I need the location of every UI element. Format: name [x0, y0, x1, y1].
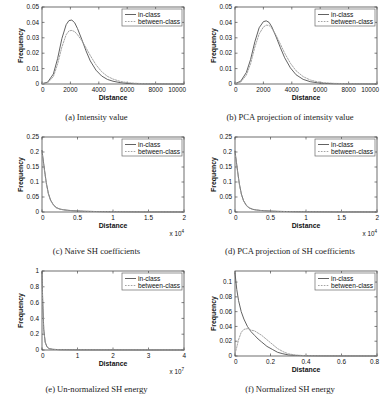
- subplot-cell-b: 020004000600080001000000.010.020.030.040…: [193, 0, 387, 130]
- caption-e-label: (e): [45, 384, 55, 394]
- caption-d-label: (d): [225, 246, 235, 256]
- x-tick-label: 10000: [361, 86, 379, 93]
- y-tick-label: 0.6: [30, 299, 39, 306]
- caption-b-text: PCA projection of intensity value: [238, 112, 353, 122]
- x-tick-label: 0.5: [73, 214, 82, 221]
- y-tick-label: 0.2: [30, 330, 39, 337]
- caption-e: (e)Un-normalized SH energy: [45, 385, 147, 394]
- legend-label-between-class: between-class: [138, 148, 181, 155]
- y-tick-label: 0.2: [30, 148, 39, 155]
- plot-b: 020004000600080001000000.010.020.030.040…: [197, 0, 383, 112]
- x-axis-exponent: x 104: [363, 229, 378, 237]
- caption-c-label: (c): [53, 246, 63, 256]
- y-tick-label: 0.05: [220, 193, 233, 200]
- x-tick-label: 0.6: [337, 358, 346, 365]
- chart-svg-e: 0123400.20.40.60.81DistanceFrequencyx 10…: [4, 264, 190, 384]
- chart-svg-c: 00.511.5200.050.10.150.20.25DistanceFreq…: [4, 130, 190, 246]
- y-tick-label: 0.15: [220, 163, 233, 170]
- x-axis-label: Distance: [98, 94, 127, 101]
- subplot-cell-a: 020004000600080001000000.010.020.030.040…: [0, 0, 193, 130]
- plot-d: 00.511.5200.050.10.150.20.25DistanceFreq…: [197, 130, 383, 246]
- y-tick-label: 0.04: [220, 323, 233, 330]
- legend-label-between-class: between-class: [331, 148, 374, 155]
- y-tick-label: 0.8: [30, 283, 39, 290]
- y-tick-label: 0.01: [220, 65, 233, 72]
- x-tick-label: 0: [41, 86, 45, 93]
- subplot-cell-f: 00.20.40.60.800.020.040.060.080.1Distanc…: [193, 264, 387, 408]
- y-tick-label: 0: [35, 208, 39, 215]
- y-tick-label: 0.06: [220, 308, 233, 315]
- caption-f: (f)Normalized SH energy: [245, 385, 335, 394]
- x-tick-label: 2: [182, 214, 186, 221]
- x-tick-label: 0.8: [370, 358, 379, 365]
- x-tick-label: 1.5: [337, 214, 346, 221]
- x-axis-label: Distance: [292, 366, 321, 373]
- legend-label-in-class: in-class: [138, 11, 161, 18]
- y-tick-label: 0.15: [26, 163, 39, 170]
- y-tick-label: 0.02: [26, 49, 39, 56]
- legend-label-in-class: in-class: [138, 141, 161, 148]
- y-tick-label: 0: [35, 80, 39, 87]
- legend-label-in-class: in-class: [138, 275, 161, 282]
- caption-f-label: (f): [245, 384, 254, 394]
- y-tick-label: 0.05: [26, 193, 39, 200]
- legend-label-in-class: in-class: [331, 141, 354, 148]
- plot-c: 00.511.5200.050.10.150.20.25DistanceFreq…: [4, 130, 190, 246]
- legend-label-between-class: between-class: [138, 18, 181, 25]
- y-tick-label: 0.02: [220, 337, 233, 344]
- series-curve-between-class: [42, 30, 184, 84]
- x-tick-label: 2: [375, 214, 379, 221]
- y-tick-label: 0.1: [223, 278, 232, 285]
- y-axis-label: Frequency: [210, 157, 218, 192]
- y-tick-label: 0.02: [220, 49, 233, 56]
- x-tick-label: 2000: [63, 86, 78, 93]
- y-axis-label: Frequency: [17, 28, 25, 63]
- x-tick-label: 0: [41, 214, 45, 221]
- x-tick-label: 0: [234, 86, 238, 93]
- x-tick-label: 8000: [148, 86, 163, 93]
- y-tick-label: 0.25: [220, 133, 233, 140]
- y-tick-label: 0.03: [26, 34, 39, 41]
- caption-e-text: Un-normalized SH energy: [57, 384, 148, 394]
- x-tick-label: 6000: [313, 86, 328, 93]
- series-curve-between-class: [235, 25, 377, 84]
- y-tick-label: 0.1: [30, 178, 39, 185]
- plot-f: 00.20.40.60.800.020.040.060.080.1Distanc…: [197, 264, 383, 384]
- series-curve-in-class: [42, 20, 184, 84]
- plot-e: 0123400.20.40.60.81DistanceFrequencyx 10…: [4, 264, 190, 384]
- y-tick-label: 0.2: [223, 148, 232, 155]
- y-tick-label: 0.04: [26, 19, 39, 26]
- caption-f-text: Normalized SH energy: [256, 384, 335, 394]
- x-tick-label: 0.4: [302, 358, 311, 365]
- chart-svg-f: 00.20.40.60.800.020.040.060.080.1Distanc…: [197, 264, 383, 384]
- y-tick-label: 1: [35, 267, 39, 274]
- x-axis-label: Distance: [98, 360, 127, 367]
- x-tick-label: 8000: [341, 86, 356, 93]
- x-axis-label: Distance: [292, 222, 321, 229]
- subplot-cell-e: 0123400.20.40.60.81DistanceFrequencyx 10…: [0, 264, 193, 408]
- subplot-grid: 020004000600080001000000.010.020.030.040…: [0, 0, 387, 408]
- x-tick-label: 0.5: [266, 214, 275, 221]
- y-tick-label: 0.1: [223, 178, 232, 185]
- plot-a: 020004000600080001000000.010.020.030.040…: [4, 0, 190, 112]
- legend-label-between-class: between-class: [331, 282, 374, 289]
- series-curve-in-class: [42, 151, 184, 212]
- y-tick-label: 0.08: [220, 293, 233, 300]
- x-tick-label: 2000: [256, 86, 271, 93]
- x-axis-exponent: x 107: [169, 367, 184, 375]
- series-curve-in-class: [235, 151, 377, 212]
- legend-label-between-class: between-class: [331, 18, 374, 25]
- x-tick-label: 0: [234, 358, 238, 365]
- caption-a: (a)Intensity value: [65, 113, 127, 122]
- caption-d: (d)PCA projection of SH coefficients: [225, 247, 355, 256]
- y-tick-label: 0.25: [26, 133, 39, 140]
- series-curve-between-class: [235, 153, 377, 212]
- x-tick-label: 1: [304, 214, 308, 221]
- x-tick-label: 0.2: [266, 358, 275, 365]
- y-tick-label: 0.4: [30, 315, 39, 322]
- y-axis-label: Frequency: [210, 28, 218, 63]
- y-axis-label: Frequency: [210, 296, 218, 331]
- chart-svg-d: 00.511.5200.050.10.150.20.25DistanceFreq…: [197, 130, 383, 246]
- series-curve-in-class: [235, 21, 377, 84]
- x-tick-label: 3: [146, 352, 150, 359]
